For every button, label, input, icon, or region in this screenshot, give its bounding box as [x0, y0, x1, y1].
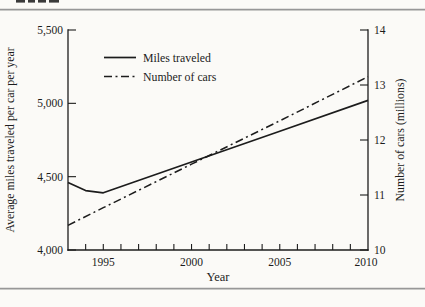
left-tick-label: 5,000	[37, 97, 63, 110]
x-tick-label: 1995	[92, 256, 115, 268]
x-tick-label: 2000	[180, 256, 203, 268]
right-axis-title: Number of cars (millions)	[393, 79, 407, 202]
x-tick-label: 2005	[268, 256, 291, 268]
plot-area	[68, 30, 368, 250]
left-tick-label: 5,500	[37, 24, 63, 37]
legend-label-miles: Miles traveled	[143, 51, 211, 65]
x-tick-label: 2010	[355, 256, 378, 268]
x-minor-ticks	[86, 244, 351, 250]
left-ticks	[68, 30, 76, 250]
right-ticks	[360, 30, 368, 250]
legend: Miles traveled Number of cars	[104, 51, 217, 84]
right-tick-label: 14	[374, 24, 386, 36]
left-axis-title: Average miles traveled per car per year	[3, 47, 17, 232]
cropped-text-fragment	[16, 0, 59, 3]
right-tick-labels: 14 13 12 11 10	[374, 24, 386, 256]
left-tick-label: 4,500	[37, 171, 63, 184]
right-tick-label: 11	[374, 189, 385, 201]
right-tick-label: 13	[374, 79, 386, 91]
series-number-of-cars	[68, 77, 368, 226]
legend-label-cars: Number of cars	[143, 70, 217, 84]
left-tick-labels: 5,500 5,000 4,500 4,000	[37, 24, 63, 257]
chart-figure: Miles traveled Number of cars 5,500 5,00…	[0, 0, 425, 307]
right-tick-label: 12	[374, 134, 386, 146]
x-axis-title: Year	[206, 270, 230, 284]
right-tick-label: 10	[374, 244, 386, 256]
series-miles-traveled	[68, 100, 368, 192]
x-tick-labels: 1995 2000 2005 2010	[92, 256, 378, 268]
left-tick-label: 4,000	[37, 244, 63, 257]
